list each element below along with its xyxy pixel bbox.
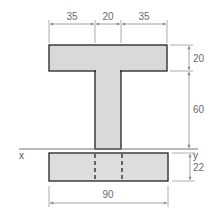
dim-top-right: 35 <box>138 11 150 22</box>
t-flange <box>49 45 167 71</box>
right-extension-lines <box>170 45 195 181</box>
dim-right-flange: 20 <box>193 53 205 64</box>
bottom-plate <box>49 153 168 181</box>
y-axis-label: y <box>193 150 198 161</box>
right-dimension-lines <box>189 46 190 180</box>
dim-bottom-width: 90 <box>102 189 114 200</box>
dim-top-left: 35 <box>66 11 78 22</box>
section-diagram: 35 20 35 20 60 22 x y 90 <box>0 0 218 224</box>
t-web <box>95 71 121 149</box>
top-extension-lines <box>49 20 167 43</box>
dim-right-plate: 22 <box>193 162 205 173</box>
x-axis-label: x <box>19 150 24 161</box>
dim-right-web: 60 <box>193 104 205 115</box>
dim-top-middle: 20 <box>102 11 114 22</box>
